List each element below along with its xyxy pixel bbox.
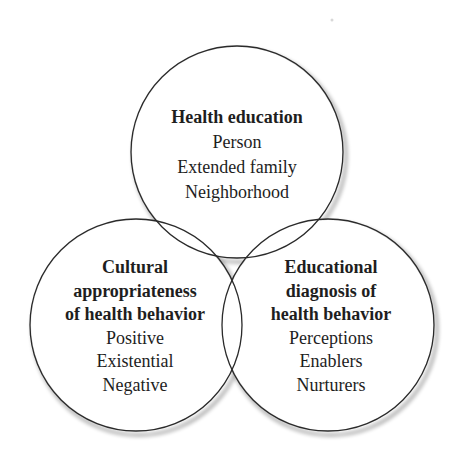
circle-item: Extended family <box>137 155 337 180</box>
circle-item: Enablers <box>231 350 431 374</box>
circle-title: Health education <box>137 105 337 130</box>
circle-item: Person <box>137 130 337 155</box>
speck <box>331 19 334 22</box>
circle-title-line: Educational <box>231 256 431 280</box>
circle-title-line: appropriateness <box>35 280 235 304</box>
circle-item: Positive <box>35 327 235 351</box>
circle-item: Perceptions <box>231 327 431 351</box>
circle-label-health-education: Health education Person Extended family … <box>137 105 337 205</box>
circle-item: Existential <box>35 350 235 374</box>
circle-label-cultural-appropriateness: Cultural appropriateness of health behav… <box>35 256 235 397</box>
circle-item: Negative <box>35 374 235 398</box>
circle-title-line: Cultural <box>35 256 235 280</box>
circle-item: Nurturers <box>231 374 431 398</box>
circle-item: Neighborhood <box>137 180 337 205</box>
circle-title-line: health behavior <box>231 303 431 327</box>
circle-title-line: of health behavior <box>35 303 235 327</box>
circle-title-line: diagnosis of <box>231 280 431 304</box>
circle-label-educational-diagnosis: Educational diagnosis of health behavior… <box>231 256 431 397</box>
